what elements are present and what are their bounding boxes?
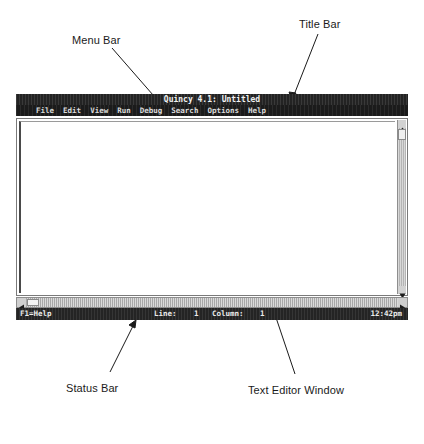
menu-items: File Edit View Run Debug Search Options …	[16, 105, 408, 116]
horizontal-scroll-box[interactable]	[27, 299, 39, 306]
quincy-application-window: Quincy 4.1: Untitled File Edit View Run …	[16, 94, 408, 320]
vertical-scroll-bar[interactable]	[397, 120, 406, 294]
menu-item-run[interactable]: Run	[117, 105, 131, 116]
menu-bar: File Edit View Run Debug Search Options …	[16, 105, 408, 116]
menu-item-edit[interactable]: Edit	[63, 105, 81, 116]
scroll-left-button-icon[interactable]	[17, 298, 26, 307]
horizontal-scroll-bar[interactable]	[16, 297, 408, 308]
annotation-label-text-editor-window: Text Editor Window	[248, 384, 344, 396]
status-column-label: Column:	[212, 309, 244, 318]
menu-item-search[interactable]: Search	[171, 105, 198, 116]
window-title: Quincy 4.1: Untitled	[16, 94, 408, 105]
text-editor-text-area[interactable]	[19, 121, 395, 293]
figure-canvas: Menu Bar Title Bar Scroll Buttons Scroll…	[0, 0, 424, 444]
status-column-value: 1	[260, 309, 265, 318]
vertical-scroll-box[interactable]	[398, 129, 406, 140]
menu-item-file[interactable]: File	[36, 105, 54, 116]
annotation-label-menu-bar: Menu Bar	[72, 34, 121, 46]
menu-item-options[interactable]: Options	[207, 105, 239, 116]
annotation-label-status-bar: Status Bar	[66, 382, 118, 394]
scroll-right-button-icon[interactable]	[398, 298, 407, 307]
status-clock: 12:42pm	[370, 309, 402, 318]
menu-item-help[interactable]: Help	[248, 105, 266, 116]
menu-item-view[interactable]: View	[90, 105, 108, 116]
status-line-value: 1	[194, 309, 199, 318]
status-help-hint[interactable]: F1=Help	[20, 309, 52, 318]
scroll-down-button-icon[interactable]	[398, 286, 406, 294]
scroll-up-button-icon[interactable]	[398, 120, 406, 128]
status-bar: F1=Help Line: 1 Column: 1 12:42pm	[16, 308, 408, 320]
title-bar: Quincy 4.1: Untitled	[16, 94, 408, 105]
status-line-label: Line:	[154, 309, 177, 318]
menu-item-debug[interactable]: Debug	[140, 105, 163, 116]
annotation-label-title-bar: Title Bar	[299, 18, 340, 30]
text-editor-window[interactable]	[16, 118, 408, 296]
